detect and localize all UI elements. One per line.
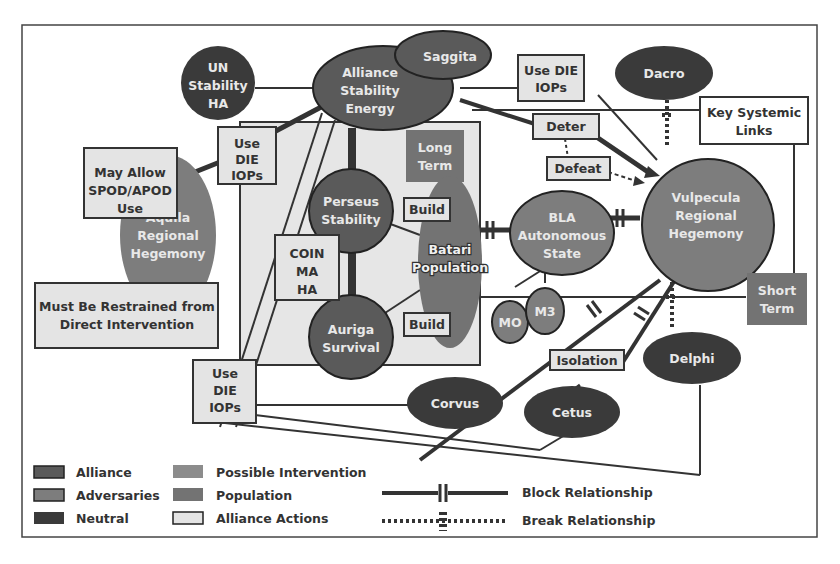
box-must-be[interactable]: [35, 283, 218, 348]
legend-label-alliance-actions: Alliance Actions: [216, 511, 328, 526]
saggita-label: Saggita: [423, 49, 477, 64]
aquila-label-2: Regional: [137, 228, 199, 243]
legend-swatch-alliance: [34, 466, 64, 478]
vulpecula-label-1: Vulpecula: [672, 190, 741, 205]
use-die-3-label-2: DIE: [213, 383, 237, 398]
coin-label-1: COIN: [290, 246, 325, 261]
build-1-label: Build: [409, 202, 445, 217]
alliance-label-2: Stability: [340, 83, 399, 98]
un-label-1: UN: [208, 60, 229, 75]
legend-swatch-neutral: [34, 512, 64, 524]
svg-text:AllianceStabilityEnergy: AllianceStabilityEnergy: [340, 65, 399, 116]
legend-swatch-alliance-actions: [173, 512, 203, 524]
coin-label-3: HA: [297, 282, 317, 297]
use-die-3-label-1: Use: [212, 366, 238, 381]
alliance-label-3: Energy: [345, 101, 394, 116]
delphi-label: Delphi: [669, 351, 714, 366]
node-auriga[interactable]: [309, 295, 393, 379]
auriga-label-2: Survival: [322, 340, 379, 355]
short-term-box: [747, 273, 807, 325]
svg-text:UseDIEIOPs: UseDIEIOPs: [231, 136, 263, 183]
corvus-label: Corvus: [431, 396, 479, 411]
legend-label-possible-intervention: Possible Intervention: [216, 465, 366, 480]
un-label-3: HA: [208, 96, 228, 111]
short-term-label-2: Term: [760, 301, 795, 316]
use-die-2-label-2: IOPs: [535, 80, 567, 95]
use-die-1-label-1: Use: [234, 136, 260, 151]
isolation-label: Isolation: [556, 353, 617, 368]
aquila-label-3: Hegemony: [130, 246, 205, 261]
legend-swatch-population: [173, 488, 203, 501]
key-links-label-1: Key Systemic: [707, 105, 801, 120]
svg-text:VulpeculaRegionalHegemony: VulpeculaRegionalHegemony: [668, 190, 743, 241]
must-be-label-2: Direct Intervention: [60, 317, 194, 332]
use-die-3-label-3: IOPs: [209, 400, 241, 415]
legend-label-population: Population: [216, 488, 292, 503]
may-allow-label-3: Use: [117, 201, 143, 216]
coin-label-2: MA: [296, 264, 318, 279]
bla-label-1: BLA: [548, 210, 575, 225]
legend-swatch-adversaries: [34, 489, 64, 501]
m3-label: M3: [534, 304, 555, 319]
perseus-label-1: Perseus: [323, 194, 379, 209]
legend-label-alliance: Alliance: [76, 465, 132, 480]
deter-label: Deter: [546, 119, 586, 134]
bla-label-3: State: [543, 246, 581, 261]
cetus-label: Cetus: [552, 405, 592, 420]
short-term-label-1: Short: [758, 283, 797, 298]
node-vulpecula[interactable]: [642, 159, 774, 291]
legend-label-neutral: Neutral: [76, 511, 129, 526]
use-die-1-label-2: DIE: [235, 152, 259, 167]
legend-label-break: Break Relationship: [522, 513, 655, 528]
un-label-2: Stability: [188, 78, 247, 93]
legend-label-block: Block Relationship: [522, 485, 653, 500]
legend-label-adversaries: Adversaries: [76, 488, 160, 503]
batari-label-1: Batari: [429, 242, 472, 257]
dacro-label: Dacro: [644, 66, 685, 81]
batari-label-2: Population: [412, 260, 488, 275]
diagram-canvas: AquilaRegionalHegemony UNStabilityHA All…: [0, 0, 840, 564]
vulpecula-label-3: Hegemony: [668, 226, 743, 241]
must-be-label-1: Must Be Restrained from: [39, 299, 215, 314]
auriga-label-1: Auriga: [328, 322, 374, 337]
key-links-label-2: Links: [736, 123, 773, 138]
mo-label: MO: [498, 315, 521, 330]
long-term-label-1: Long: [418, 140, 452, 155]
use-die-2-label-1: Use DIE: [524, 63, 578, 78]
may-allow-label-2: SPOD/APOD: [88, 183, 172, 198]
legend-swatch-possible-intervention: [173, 465, 203, 478]
may-allow-label-1: May Allow: [94, 165, 166, 180]
use-die-1-label-3: IOPs: [231, 168, 263, 183]
bla-label-2: Autonomous: [518, 228, 607, 243]
vulpecula-label-2: Regional: [675, 208, 737, 223]
defeat-label: Defeat: [554, 161, 601, 176]
build-2-label: Build: [409, 317, 445, 332]
perseus-label-2: Stability: [321, 212, 380, 227]
long-term-box: [406, 130, 464, 182]
alliance-label-1: Alliance: [342, 65, 398, 80]
long-term-label-2: Term: [418, 158, 453, 173]
svg-text:UseDIEIOPs: UseDIEIOPs: [209, 366, 241, 415]
